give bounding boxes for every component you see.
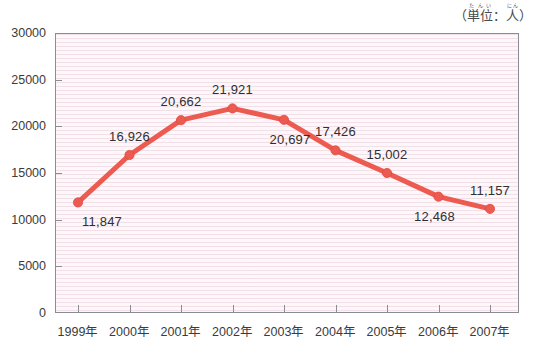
- plot-area: [55, 33, 519, 313]
- y-axis-tick-mark: [55, 80, 62, 81]
- unit-open-paren: （: [454, 8, 467, 23]
- unit-word-tani-ruby: たんい: [467, 2, 493, 8]
- x-axis-tick-mark: [439, 305, 440, 313]
- y-axis-tick-mark: [55, 266, 62, 267]
- y-axis-tick-mark: [55, 220, 62, 221]
- unit-word-tani: 単位たんい: [467, 8, 493, 23]
- x-axis-tick-mark: [181, 305, 182, 313]
- x-axis-tick-label: 2007年: [455, 321, 525, 340]
- x-axis-tick-mark: [78, 305, 79, 313]
- y-axis-tick-label: 5000: [0, 259, 46, 273]
- data-point-label: 21,921: [212, 82, 253, 97]
- data-point-label: 20,697: [270, 131, 311, 146]
- x-axis-tick-mark: [130, 305, 131, 313]
- x-axis-tick-mark: [336, 305, 337, 313]
- data-point-label: 12,468: [414, 208, 455, 223]
- unit-close-paren: ）: [519, 8, 532, 23]
- y-axis-tick-label: 10000: [0, 213, 46, 227]
- y-axis-tick-label: 25000: [0, 73, 46, 87]
- y-axis-tick-label: 0: [0, 306, 46, 320]
- chart-container: （単位たんい：人にん） 0500010000150002000025000300…: [0, 0, 540, 350]
- data-point-label: 16,926: [109, 129, 150, 144]
- x-axis-tick-mark: [490, 305, 491, 313]
- y-axis-tick-label: 20000: [0, 119, 46, 133]
- x-axis-tick-mark: [284, 305, 285, 313]
- unit-colon: ：: [493, 8, 506, 23]
- x-axis-tick-mark: [233, 305, 234, 313]
- data-point-label: 17,426: [315, 124, 356, 139]
- y-axis-tick-mark: [55, 173, 62, 174]
- unit-caption: （単位たんい：人にん）: [454, 2, 532, 24]
- x-axis-tick-mark: [387, 305, 388, 313]
- unit-word-nin-ruby: にん: [506, 2, 519, 8]
- y-axis-tick-mark: [55, 126, 62, 127]
- data-point-label: 15,002: [367, 146, 408, 161]
- y-axis-tick-label: 30000: [0, 26, 46, 40]
- data-point-label: 11,847: [82, 214, 122, 229]
- unit-word-nin: 人にん: [506, 8, 519, 23]
- data-point-label: 20,662: [161, 94, 202, 109]
- data-point-label: 11,157: [470, 182, 510, 197]
- y-axis-tick-label: 15000: [0, 166, 46, 180]
